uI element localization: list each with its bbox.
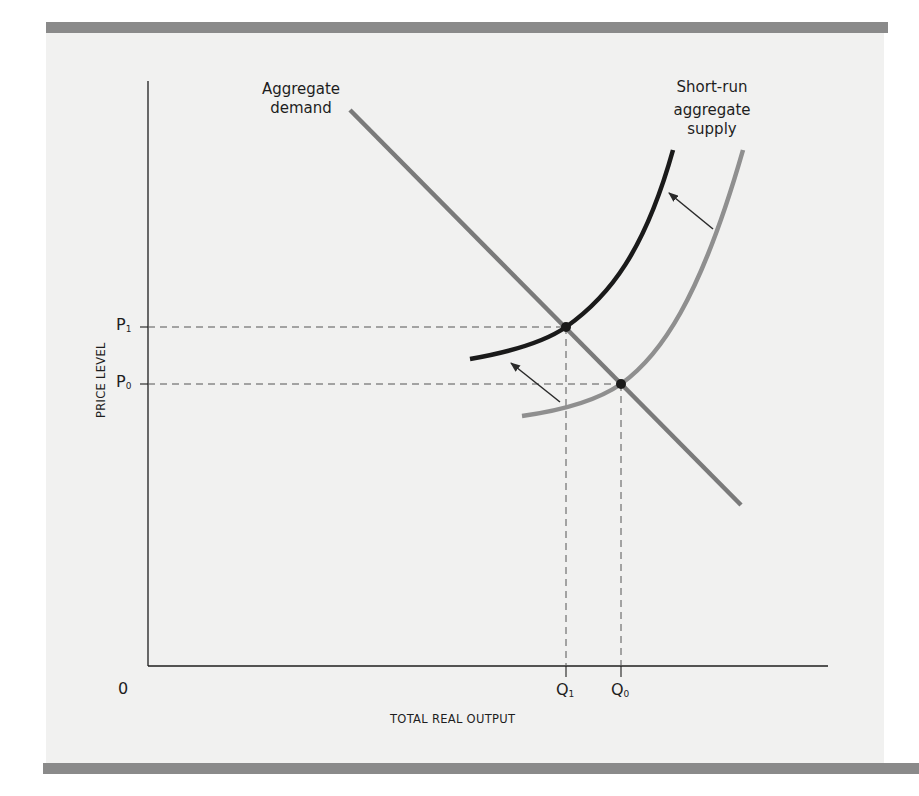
p0-subscript: 0 bbox=[126, 381, 132, 391]
origin-label: 0 bbox=[118, 679, 128, 698]
y-tick-label-p1: P1 bbox=[116, 315, 131, 334]
q0-subscript: 0 bbox=[624, 689, 630, 699]
sras0-curve bbox=[522, 150, 743, 416]
ad-label-line-1: Aggregate bbox=[246, 80, 356, 99]
shift-arrow-upper bbox=[669, 193, 713, 229]
equilibrium-e1 bbox=[561, 322, 571, 332]
sras-label: Short-run aggregate supply bbox=[657, 76, 767, 141]
x-tick-label-q1: Q1 bbox=[556, 680, 574, 699]
sras-label-line-1: Short-run bbox=[657, 76, 767, 99]
q1-letter: Q bbox=[556, 680, 569, 699]
q1-subscript: 1 bbox=[569, 689, 575, 699]
y-axis-title: PRICE LEVEL bbox=[94, 342, 108, 418]
ad-label-line-2: demand bbox=[246, 99, 356, 118]
y-tick-label-p0: P0 bbox=[116, 372, 131, 391]
p0-letter: P bbox=[116, 372, 126, 391]
p1-subscript: 1 bbox=[126, 324, 132, 334]
p1-letter: P bbox=[116, 315, 126, 334]
sras1-curve bbox=[470, 150, 673, 359]
chart-plot bbox=[0, 0, 919, 796]
x-axis-title: TOTAL REAL OUTPUT bbox=[390, 712, 515, 726]
x-tick-label-q0: Q0 bbox=[611, 680, 629, 699]
shift-arrow-lower bbox=[511, 363, 560, 402]
q0-letter: Q bbox=[611, 680, 624, 699]
equilibrium-e0 bbox=[616, 379, 626, 389]
aggregate-demand-label: Aggregate demand bbox=[246, 80, 356, 118]
